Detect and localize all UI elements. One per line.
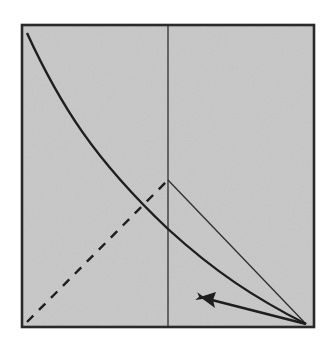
economic-diagram bbox=[0, 0, 326, 354]
